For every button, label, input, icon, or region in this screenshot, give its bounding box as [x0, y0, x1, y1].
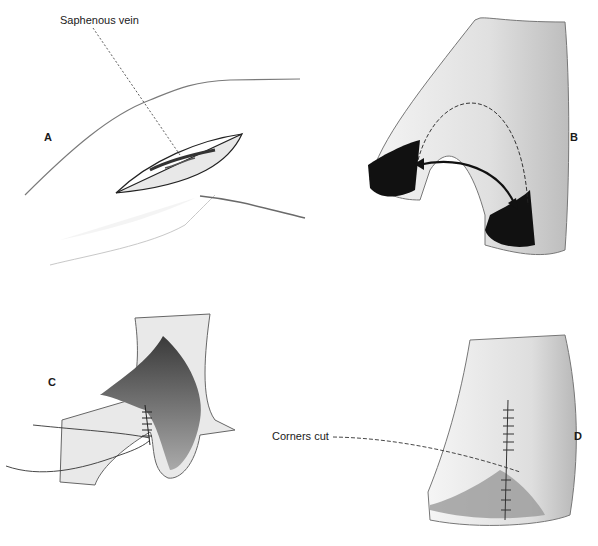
panel-c-drawing [6, 314, 235, 485]
panel-d-drawing [333, 335, 576, 525]
panel-b-drawing [368, 18, 569, 255]
callout-corners-cut: Corners cut [272, 430, 329, 442]
panel-label-d: D [574, 430, 582, 442]
callout-saphenous-vein: Saphenous vein [60, 14, 139, 26]
panel-label-a: A [44, 131, 52, 143]
illustration-canvas [0, 0, 598, 546]
panel-label-b: B [570, 131, 578, 143]
panel-a-drawing [25, 28, 305, 265]
panel-label-c: C [48, 376, 56, 388]
